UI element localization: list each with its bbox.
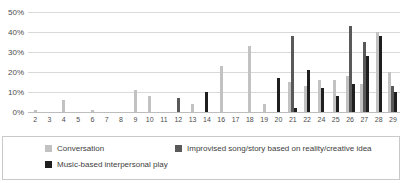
x-tick-label-24: 24 — [314, 115, 328, 124]
x-tick-label-14: 14 — [200, 115, 214, 124]
x-tick-label-22: 22 — [300, 115, 314, 124]
bar-conversation-16 — [220, 66, 223, 112]
legend-swatch-icon — [175, 145, 182, 152]
plot-area — [28, 12, 400, 112]
bar-music-based-21 — [294, 108, 297, 112]
y-tick-label: 40% — [0, 28, 24, 37]
y-tick-label: 0% — [0, 108, 24, 117]
x-tick-label-3: 3 — [42, 115, 56, 124]
bar-conversation-2 — [34, 110, 37, 112]
bar-conversation-10 — [148, 96, 151, 112]
bar-group-4 — [57, 12, 71, 112]
bar-music-based-14 — [205, 92, 208, 112]
bar-group-29 — [386, 12, 400, 112]
legend-item-2: Music-based interpersonal play — [45, 160, 175, 169]
legend-item-0: Conversation — [45, 144, 175, 153]
legend-label: Music-based interpersonal play — [57, 160, 168, 169]
legend-swatch-icon — [45, 145, 52, 152]
bar-group-18 — [243, 12, 257, 112]
bar-group-2 — [28, 12, 42, 112]
y-tick-label: 10% — [0, 88, 24, 97]
bar-music-based-25 — [336, 96, 339, 112]
bar-music-based-29 — [394, 92, 397, 112]
legend-label: Improvised song/story based on reality/c… — [187, 144, 372, 153]
x-tick-label-2: 2 — [28, 115, 42, 124]
bar-conversation-4 — [62, 100, 65, 112]
bar-group-3 — [42, 12, 56, 112]
x-tick-label-13: 13 — [185, 115, 199, 124]
legend: ConversationImprovised song/story based … — [2, 136, 400, 180]
bar-group-12 — [171, 12, 185, 112]
bar-improvised-21 — [291, 36, 294, 112]
x-tick-label-6: 6 — [85, 115, 99, 124]
y-tick-label: 50% — [0, 8, 24, 17]
bar-music-based-27 — [366, 56, 369, 112]
x-tick-label-25: 25 — [329, 115, 343, 124]
x-tick-label-10: 10 — [143, 115, 157, 124]
bar-group-14 — [200, 12, 214, 112]
bar-group-5 — [71, 12, 85, 112]
x-tick-label-26: 26 — [343, 115, 357, 124]
bar-group-6 — [85, 12, 99, 112]
bar-conversation-13 — [191, 104, 194, 112]
x-tick-label-8: 8 — [114, 115, 128, 124]
bar-group-13 — [185, 12, 199, 112]
x-tick-label-18: 18 — [243, 115, 257, 124]
bar-conversation-18 — [248, 46, 251, 112]
x-tick-label-27: 27 — [357, 115, 371, 124]
legend-grid: ConversationImprovised song/story based … — [45, 144, 395, 169]
bar-group-17 — [228, 12, 242, 112]
legend-swatch-icon — [45, 161, 52, 168]
bar-group-21 — [286, 12, 300, 112]
bar-chart: 0%10%20%30%40%50% 2345678910111213141617… — [0, 0, 404, 183]
x-tick-label-5: 5 — [71, 115, 85, 124]
x-tick-label-7: 7 — [100, 115, 114, 124]
x-tick-label-9: 9 — [128, 115, 142, 124]
legend-item-1: Improvised song/story based on reality/c… — [175, 144, 395, 153]
x-tick-label-19: 19 — [257, 115, 271, 124]
bar-conversation-9 — [134, 90, 137, 112]
bar-group-20 — [271, 12, 285, 112]
legend-label: Conversation — [57, 144, 104, 153]
bar-conversation-6 — [91, 110, 94, 112]
bar-group-24 — [314, 12, 328, 112]
x-axis: 2345678910111213141617181920212224252627… — [28, 115, 400, 124]
x-tick-label-17: 17 — [228, 115, 242, 124]
bar-group-28 — [372, 12, 386, 112]
x-tick-label-4: 4 — [57, 115, 71, 124]
x-tick-label-21: 21 — [286, 115, 300, 124]
bar-group-26 — [343, 12, 357, 112]
bar-group-9 — [128, 12, 142, 112]
bar-music-based-20 — [277, 78, 280, 112]
bar-group-27 — [357, 12, 371, 112]
bar-group-25 — [329, 12, 343, 112]
x-tick-label-28: 28 — [372, 115, 386, 124]
bar-improvised-12 — [177, 98, 180, 112]
y-tick-label: 20% — [0, 68, 24, 77]
gridline-0% — [28, 112, 400, 113]
x-tick-label-12: 12 — [171, 115, 185, 124]
x-tick-label-16: 16 — [214, 115, 228, 124]
x-tick-label-29: 29 — [386, 115, 400, 124]
y-tick-label: 30% — [0, 48, 24, 57]
bar-music-based-28 — [379, 36, 382, 112]
bar-group-19 — [257, 12, 271, 112]
bar-group-22 — [300, 12, 314, 112]
bar-music-based-26 — [352, 84, 355, 112]
x-tick-label-11: 11 — [157, 115, 171, 124]
bar-conversation-19 — [263, 104, 266, 112]
bar-group-11 — [157, 12, 171, 112]
bar-group-8 — [114, 12, 128, 112]
bar-music-based-22 — [307, 70, 310, 112]
bar-group-7 — [100, 12, 114, 112]
bar-group-10 — [143, 12, 157, 112]
bar-group-16 — [214, 12, 228, 112]
bar-music-based-24 — [321, 88, 324, 112]
x-tick-label-20: 20 — [271, 115, 285, 124]
